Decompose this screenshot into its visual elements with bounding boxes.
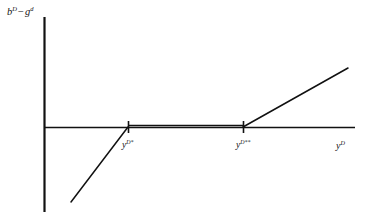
chart-figure: bD−gd yD yD* yD** (0, 0, 367, 218)
x-tick-label-2-superscript: D** (240, 139, 250, 145)
y-axis-label: bD−gd (7, 7, 33, 18)
chart-canvas (0, 0, 367, 218)
y-axis-label-superscript2: d (30, 5, 33, 12)
curve-upper-rising-branch (243, 68, 348, 127)
x-tick-label-1: yD* (122, 141, 133, 151)
x-tick-label-1-superscript: D* (126, 139, 133, 145)
curve-lower-rising-branch (71, 127, 128, 202)
x-tick-label-2: yD** (236, 141, 250, 151)
x-axis-label: yD (336, 141, 345, 151)
x-axis-label-superscript: D (340, 139, 344, 146)
y-axis-label-operator: − (17, 6, 25, 17)
